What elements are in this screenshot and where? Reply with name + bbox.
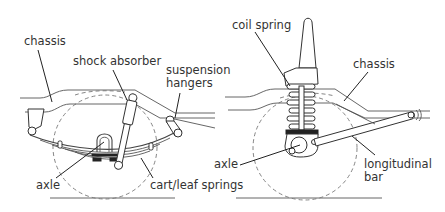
coil-spring [287, 84, 315, 130]
front-shackle-pin [28, 127, 36, 135]
suspension-hangers-leader [175, 93, 180, 118]
chassis-frame-top-right [225, 89, 430, 111]
leaf-springs-leader [141, 158, 153, 178]
wheel-outline [53, 95, 157, 199]
chassis-diagonal [336, 104, 375, 124]
label-cart-leaf-springs: cart/leaf springs [150, 178, 243, 192]
suspension-diagram: chassis shock absorber suspension hanger… [0, 0, 445, 212]
chassis-frame-bottom [25, 104, 215, 118]
axle-bolt [289, 148, 295, 154]
axle-clamp-plate [92, 154, 119, 156]
longitudinal-bar [314, 112, 415, 146]
label-longitudinal-bar-1: longitudinal [364, 157, 432, 171]
label-chassis-left: chassis [24, 34, 66, 48]
label-axle-right: axle [214, 157, 238, 171]
label-shock-absorber: shock absorber [73, 54, 161, 68]
spring-lower-seat [286, 130, 318, 134]
spring-clip-left [58, 141, 62, 148]
coil-spring-leader [255, 32, 290, 86]
chassis-hidden-edge [75, 91, 125, 95]
rear-hanger-bottom-pin [174, 129, 182, 137]
chassis-leader-right [344, 72, 368, 101]
label-suspension-hangers-1: suspension [166, 63, 230, 77]
leaf-spring-diagram: chassis shock absorber suspension hanger… [20, 34, 243, 199]
shock-absorber-leader [113, 70, 127, 100]
label-coil-spring: coil spring [232, 18, 291, 32]
shock-tower [299, 18, 316, 68]
longitudinal-bar-leader [352, 136, 375, 155]
axle-nut-left [93, 158, 101, 161]
label-chassis-right: chassis [353, 57, 395, 71]
pivot-arc-1 [416, 110, 418, 120]
label-suspension-hangers-2: hangers [166, 76, 213, 90]
label-axle-left: axle [36, 178, 60, 192]
label-longitudinal-bar-2: bar [364, 170, 383, 184]
longitudinal-bar-pivot [408, 112, 414, 118]
spring-top-mount [284, 68, 318, 86]
spring-clip-right [149, 143, 153, 150]
coil-spring-diagram: coil spring chassis axle longitudinal ba… [214, 18, 432, 200]
chassis-leader [38, 50, 52, 102]
shock-absorber [113, 93, 139, 170]
